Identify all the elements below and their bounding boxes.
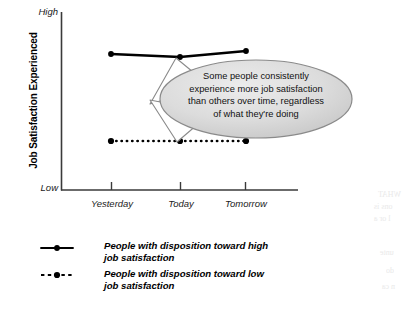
y-axis-title: Job Satisfaction Experienced [28,21,39,181]
job-satisfaction-line-chart: High Low Job Satisfaction Experienced Ye… [0,0,419,315]
callout-line-0: Some people consistently [167,70,345,83]
bleed-artifact: ons is [374,202,392,211]
bleed-artifact: n ca [382,282,395,291]
bleed-artifact: WHAT [378,190,401,199]
callout-line-2: than others over time, regardless [167,95,345,108]
x-axis-ticks [112,182,246,190]
series-high-disposition [108,48,249,60]
data-point [243,48,249,54]
legend-item-label-line-1: job satisfaction [104,252,268,264]
legend-item-label-line-1: job satisfaction [104,280,264,292]
legend-marker-solid [41,245,73,251]
callout-line-1: experience more job satisfaction [167,83,345,96]
bleed-artifact: unte [380,248,394,257]
legend-item-label-line-0: People with disposition toward low [104,268,264,279]
x-tick-label-tomorrow: Tomorrow [209,198,283,209]
legend-item-high-disposition: People with disposition toward high job … [104,240,268,265]
callout-text: Some people consistently experience more… [167,70,345,120]
y-axis-high-label: High [16,6,58,17]
data-point [108,138,114,144]
x-tick-label-yesterday: Yesterday [74,198,150,209]
bleed-artifact: do [386,266,394,275]
legend-item-low-disposition: People with disposition toward low job s… [104,268,264,293]
legend-marker-dashed [41,272,73,278]
x-tick-label-today: Today [150,198,212,209]
data-point [108,51,114,57]
bleed-artifact: l or a [374,214,390,223]
data-point [243,138,249,144]
y-axis-low-label: Low [16,182,58,193]
legend-item-label-line-0: People with disposition toward high [104,240,268,251]
callout-line-3: of what they're doing [167,108,345,121]
